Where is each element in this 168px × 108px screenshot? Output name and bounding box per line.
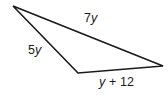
side-label-y-plus-12-constant: 12 [120,75,134,89]
side-label-5y: 5y [28,44,41,57]
side-label-y-plus-12-variable: y [99,75,105,89]
side-label-5y-text: 5 [28,43,35,57]
side-label-7y-variable: y [91,11,97,25]
side-label-7y-text: 7 [84,11,91,25]
side-label-5y-variable: y [35,43,41,57]
side-label-y-plus-12: y + 12 [99,76,134,89]
side-label-y-plus-12-operator: + [109,75,116,89]
geometry-figure-triangle: 7y 5y y + 12 [0,0,168,108]
side-label-7y: 7y [84,12,97,25]
